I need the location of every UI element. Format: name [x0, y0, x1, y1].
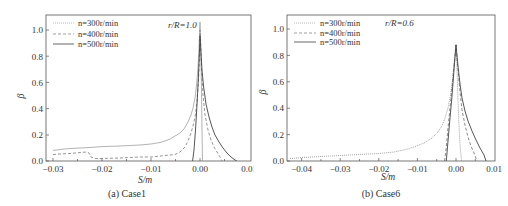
svg-text:0.00: 0.00 — [192, 164, 208, 174]
chart-case1: 0.0 0.2 0.4 0.6 0.8 1.0 −0.03 −0.02 −0.0… — [0, 0, 254, 206]
annotation-rR: r/R=0.6 — [385, 18, 414, 28]
series-n500 — [446, 45, 486, 161]
series-n300 — [53, 22, 203, 161]
panel-caption-case1: (a) Case1 — [0, 188, 254, 199]
plot-frame — [46, 15, 251, 161]
svg-text:1.0: 1.0 — [32, 25, 44, 35]
x-tick-labels: −0.04 −0.03 −0.02 −0.01 0.00 0.01 — [291, 164, 502, 174]
svg-text:−0.03: −0.03 — [330, 164, 351, 174]
series-n500 — [193, 36, 237, 161]
svg-text:0.01: 0.01 — [241, 164, 254, 174]
svg-text:0.8: 0.8 — [273, 51, 285, 61]
x-axis — [53, 158, 225, 161]
svg-text:0.8: 0.8 — [32, 52, 44, 62]
legend-item-300: n=300r/min — [78, 18, 119, 28]
x-tick-labels: −0.03 −0.02 −0.01 0.00 0.01 — [43, 164, 254, 174]
series-n400 — [445, 45, 478, 161]
svg-text:−0.04: −0.04 — [291, 164, 312, 174]
svg-text:0.6: 0.6 — [273, 77, 285, 87]
legend-item-300: n=300r/min — [320, 18, 361, 28]
svg-text:−0.01: −0.01 — [407, 164, 428, 174]
svg-text:0.2: 0.2 — [32, 130, 43, 140]
y-tick-labels: 0.0 0.2 0.4 0.6 0.8 1.0 — [273, 24, 285, 166]
legend-item-500: n=500r/min — [78, 39, 119, 49]
y-axis — [287, 29, 290, 161]
svg-text:1.0: 1.0 — [273, 24, 285, 34]
svg-text:0.00: 0.00 — [448, 164, 464, 174]
svg-text:−0.03: −0.03 — [43, 164, 64, 174]
chart-case6: 0.0 0.2 0.4 0.6 0.8 1.0 −0.04 −0.03 −0.0… — [254, 0, 508, 206]
legend-item-400: n=400r/min — [78, 29, 119, 39]
series-n400 — [53, 30, 222, 161]
annotation-rR: r/R=1.0 — [168, 20, 197, 30]
y-axis-label: β — [257, 89, 268, 95]
svg-text:0.4: 0.4 — [273, 103, 285, 113]
y-axis-label: β — [15, 93, 26, 99]
x-axis-label: S/m — [381, 172, 395, 182]
legend: n=300r/min n=400r/min n=500r/min — [294, 18, 361, 47]
svg-text:0.4: 0.4 — [32, 104, 44, 114]
svg-text:0.6: 0.6 — [32, 78, 44, 88]
plot-frame — [287, 15, 495, 161]
svg-text:−0.02: −0.02 — [92, 164, 113, 174]
x-axis — [302, 158, 476, 161]
series-n300 — [290, 44, 462, 161]
svg-text:0.01: 0.01 — [486, 164, 502, 174]
y-tick-labels: 0.0 0.2 0.4 0.6 0.8 1.0 — [32, 25, 44, 166]
y-axis — [46, 30, 49, 161]
legend-item-500: n=500r/min — [320, 37, 361, 47]
panel-caption-case6: (b) Case6 — [254, 188, 508, 199]
x-axis-label: S/m — [138, 175, 152, 185]
chart-panel-case6: 0.0 0.2 0.4 0.6 0.8 1.0 −0.04 −0.03 −0.0… — [254, 0, 508, 206]
series-lines — [290, 44, 486, 161]
chart-panel-case1: 0.0 0.2 0.4 0.6 0.8 1.0 −0.03 −0.02 −0.0… — [0, 0, 254, 206]
svg-text:−0.01: −0.01 — [141, 164, 162, 174]
legend: n=300r/min n=400r/min n=500r/min — [53, 18, 119, 49]
svg-text:0.2: 0.2 — [273, 130, 284, 140]
svg-text:0.0: 0.0 — [273, 156, 285, 166]
